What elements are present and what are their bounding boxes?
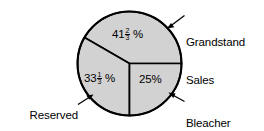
slice-value-reserved-seat-unit: %: [105, 73, 115, 85]
callout-label-bleacher: Bleacher Sales: [186, 92, 231, 131]
slice-value-bleacher-whole: 25%: [139, 73, 162, 85]
slice-value-grandstand: 41 2 3 %: [112, 28, 143, 41]
pie-chart-figure: 41 2 3 % 33 1 3 % 25% Grandstand Sales R…: [0, 0, 264, 131]
slice-value-grandstand-fraction: 2 3: [125, 28, 130, 41]
slice-value-grandstand-whole: 41: [112, 29, 125, 41]
slice-value-grandstand-denominator: 3: [125, 34, 130, 41]
leader-arrow-bleacher: [168, 93, 184, 102]
slice-value-reserved-seat-whole: 33: [84, 73, 97, 85]
slice-value-reserved-seat: 33 1 3 %: [84, 72, 115, 85]
callout-label-grandstand-line2: Sales: [186, 74, 245, 87]
callout-label-bleacher-line1: Bleacher: [186, 117, 231, 130]
slice-value-reserved-seat-denominator: 3: [97, 78, 102, 85]
callout-label-grandstand-line1: Grandstand: [186, 36, 245, 49]
slice-value-reserved-seat-fraction: 1 3: [97, 72, 102, 85]
callout-label-reserved-seat: Reserved Seat Sales: [2, 84, 78, 131]
callout-label-reserved-seat-line1: Reserved: [2, 109, 78, 122]
slice-value-grandstand-unit: %: [133, 29, 143, 41]
leader-arrow-grandstand: [167, 16, 185, 29]
slice-value-bleacher: 25%: [139, 74, 162, 86]
